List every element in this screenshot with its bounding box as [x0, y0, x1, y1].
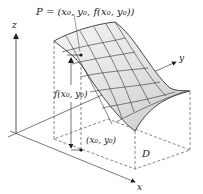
y-axis-label: y — [178, 53, 185, 63]
base-point-label: (x₀, y₀) — [86, 135, 117, 145]
x-axis-label: x — [137, 182, 142, 192]
base-point — [79, 148, 82, 151]
height-label: f(x₀, y₀) — [53, 89, 88, 99]
x-axis — [10, 131, 135, 182]
surface — [54, 22, 190, 131]
domain-label: D — [141, 148, 150, 159]
surface-graph-diagram: P = (x₀, y₀, f(x₀, y₀)) f(x₀, y₀) (x₀, y… — [0, 0, 203, 194]
point-p-label: P = (x₀, y₀, f(x₀, y₀)) — [35, 6, 135, 17]
z-axis-label: z — [11, 20, 17, 30]
